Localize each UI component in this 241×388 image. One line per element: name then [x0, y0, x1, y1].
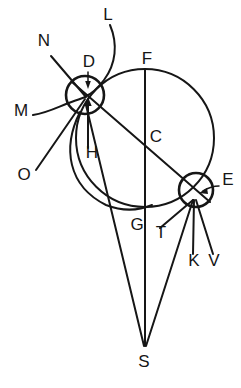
ray-O	[36, 99, 85, 170]
label-G: G	[130, 215, 143, 234]
label-K: K	[188, 251, 200, 270]
label-C: C	[150, 127, 162, 146]
label-O: O	[17, 165, 30, 184]
label-E: E	[222, 170, 233, 189]
label-H: H	[86, 143, 98, 162]
arc-D-to-lower-circle	[70, 112, 152, 210]
label-D: D	[83, 52, 95, 71]
label-S: S	[138, 352, 149, 371]
arrowhead-D	[85, 81, 91, 89]
ray-V	[196, 200, 213, 254]
line-E-to-S	[146, 200, 193, 346]
arrowhead-E	[199, 188, 208, 194]
ray-K	[193, 200, 194, 254]
label-V: V	[208, 251, 220, 270]
label-T: T	[156, 223, 166, 242]
geometric-diagram: L N D F M C H O E G T K V S	[0, 0, 241, 388]
label-F: F	[142, 49, 152, 68]
diagram-canvas: L N D F M C H O E G T K V S	[0, 0, 241, 388]
label-N: N	[38, 31, 50, 50]
label-L: L	[103, 5, 112, 24]
label-M: M	[14, 101, 28, 120]
